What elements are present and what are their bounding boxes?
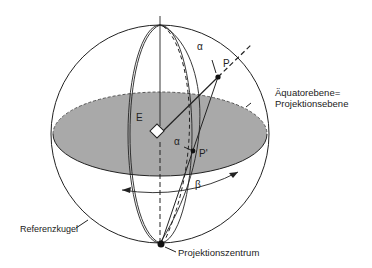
- P-prime-point: [191, 149, 196, 154]
- stereographic-projection-diagram: E P P' α α β Äquatorebene= Projektionseb…: [0, 0, 372, 268]
- label-P-prime: P': [199, 148, 208, 159]
- label-equator-plane-2: Projektionsebene: [275, 98, 348, 109]
- projection-center-leader: [165, 247, 176, 252]
- label-alpha-top: α: [197, 41, 203, 52]
- projection-center-point: [158, 241, 165, 248]
- label-beta: β: [195, 179, 201, 190]
- label-alpha-center: α: [174, 136, 180, 147]
- label-reference-sphere: Referenzkugel: [20, 224, 78, 234]
- beta-arrow-left: [122, 187, 131, 193]
- beta-arrow-right: [229, 172, 238, 178]
- alpha-top-leader: [212, 60, 216, 73]
- label-P: P: [223, 58, 230, 69]
- label-equator-plane-1: Äquatorebene=: [275, 87, 341, 98]
- equator-label-leader: [246, 103, 251, 107]
- P-point: [215, 74, 220, 79]
- label-E: E: [136, 112, 143, 123]
- label-projection-center: Projektionszentrum: [178, 247, 259, 258]
